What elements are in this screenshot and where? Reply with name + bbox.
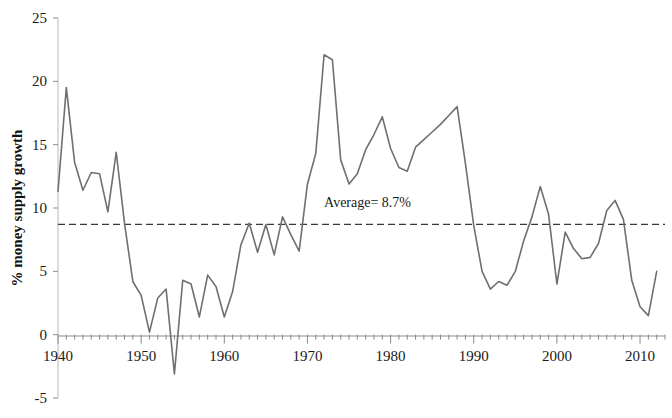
average-annotation-label: Average= 8.7% xyxy=(324,195,411,210)
x-tick-label: 2000 xyxy=(542,348,572,364)
money-supply-growth-chart: -50510152025 194019501960197019801990200… xyxy=(0,0,672,418)
y-tick-label: 5 xyxy=(40,263,48,279)
x-tick-label: 1970 xyxy=(292,348,322,364)
x-tick-label: 2010 xyxy=(625,348,655,364)
x-tick-label: 1990 xyxy=(459,348,489,364)
y-tick-label: 15 xyxy=(32,137,47,153)
x-tick-label: 1960 xyxy=(209,348,239,364)
x-tick-label: 1940 xyxy=(43,348,73,364)
y-tick-label: 0 xyxy=(40,327,48,343)
x-tick-label: 1950 xyxy=(126,348,156,364)
y-tick-label: 20 xyxy=(32,73,47,89)
x-tick-label: 1980 xyxy=(376,348,406,364)
y-tick-label: 25 xyxy=(32,10,47,26)
y-tick-label: 10 xyxy=(32,200,47,216)
chart-canvas: -50510152025 194019501960197019801990200… xyxy=(0,0,672,418)
y-tick-label: -5 xyxy=(35,390,48,406)
y-axis-title: % money supply growth xyxy=(9,129,25,286)
